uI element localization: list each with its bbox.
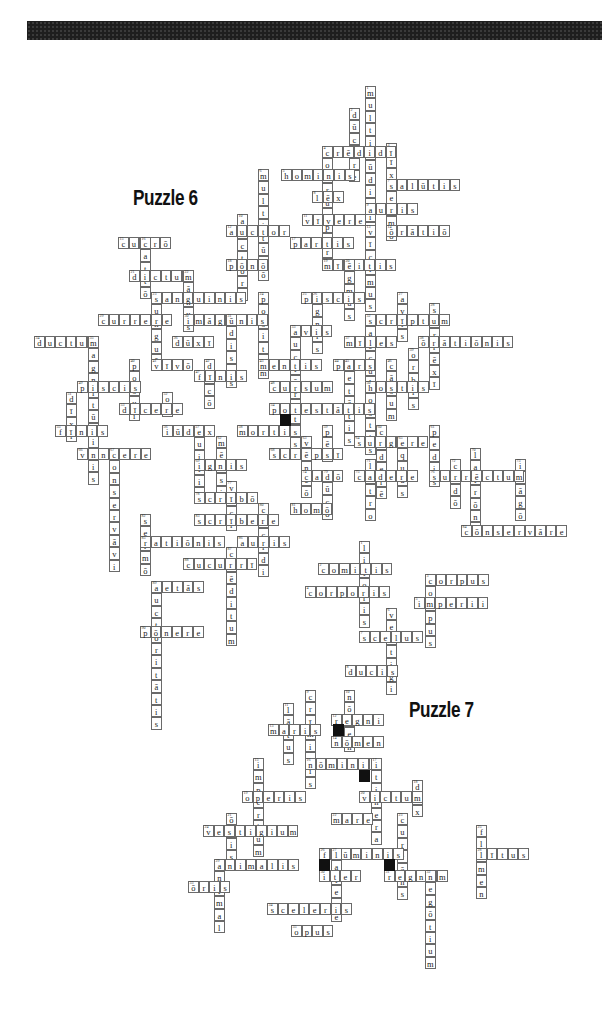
crossword-cell[interactable]: s34 (267, 903, 278, 915)
crossword-cell[interactable]: i (267, 825, 278, 837)
crossword-cell[interactable]: u (277, 825, 288, 837)
crossword-cell[interactable]: g (425, 895, 436, 907)
crossword-cell[interactable]: t (235, 825, 246, 837)
crossword-cell[interactable]: l (214, 921, 225, 933)
crossword-cell[interactable]: l (391, 631, 402, 643)
crossword-cell[interactable]: e (331, 885, 342, 897)
crossword-cell[interactable]: u (425, 624, 436, 636)
crossword-cell[interactable]: c9 (305, 690, 316, 702)
crossword-cell[interactable]: s (359, 615, 370, 627)
crossword-cell[interactable]: m (412, 791, 423, 803)
crossword-cell[interactable]: r (358, 586, 369, 598)
crossword-cell[interactable]: g (256, 825, 267, 837)
crossword-cell[interactable]: l11 (283, 703, 294, 715)
crossword-cell[interactable]: r31 (384, 870, 395, 882)
crossword-cell[interactable]: e (288, 903, 299, 915)
crossword-cell[interactable]: m (425, 597, 436, 609)
crossword-cell[interactable]: i (331, 903, 342, 915)
crossword-cell[interactable]: c (380, 791, 391, 803)
crossword-cell[interactable]: i (235, 859, 246, 871)
crossword-cell[interactable]: u (283, 740, 294, 752)
crossword-cell[interactable]: x (412, 805, 423, 817)
crossword-cell[interactable]: o19 (242, 791, 253, 803)
crossword-cell[interactable]: u (401, 631, 412, 643)
crossword-cell[interactable]: e (425, 882, 436, 894)
crossword-cell[interactable]: m13 (268, 724, 279, 736)
crossword-cell[interactable]: p (302, 925, 313, 937)
crossword-cell[interactable]: i (350, 563, 361, 575)
crossword-cell[interactable]: s (518, 848, 529, 860)
crossword-cell[interactable]: u (401, 791, 412, 803)
crossword-cell[interactable]: l28 (476, 848, 487, 860)
crossword-cell[interactable]: s (412, 631, 423, 643)
crossword-cell[interactable]: o (347, 586, 358, 598)
crossword-cell[interactable]: i17 (371, 758, 382, 770)
crossword-cell[interactable]: v24 (203, 825, 214, 837)
crossword-cell[interactable]: m (437, 870, 448, 882)
crossword-cell[interactable]: r (305, 702, 316, 714)
crossword-cell[interactable]: ō33 (188, 881, 199, 893)
crossword-cell[interactable]: i (305, 740, 316, 752)
crossword-cell[interactable]: p (457, 574, 468, 586)
crossword-cell[interactable]: m (425, 957, 436, 969)
crossword-cell[interactable]: i (226, 838, 237, 850)
crossword-cell[interactable]: d8 (345, 665, 356, 677)
crossword-cell[interactable]: a (214, 909, 225, 921)
crossword-cell[interactable]: n16 (305, 758, 316, 770)
crossword-cell[interactable]: n (347, 758, 358, 770)
crossword-cell[interactable]: s (478, 574, 489, 586)
crossword-cell[interactable]: u (467, 574, 478, 586)
crossword-cell[interactable]: a (342, 813, 353, 825)
crossword-cell[interactable]: m (246, 859, 257, 871)
crossword-cell[interactable]: c (278, 903, 289, 915)
crossword-cell[interactable]: c (370, 631, 381, 643)
crossword-cell[interactable]: l1 (359, 541, 370, 553)
crossword-cell[interactable]: l (299, 903, 310, 915)
crossword-cell[interactable]: ō (344, 702, 355, 714)
crossword-cell[interactable]: i5 (414, 597, 425, 609)
crossword-cell[interactable]: r (253, 808, 264, 820)
crossword-cell[interactable]: s7 (359, 631, 370, 643)
crossword-cell[interactable]: o (316, 586, 327, 598)
crossword-cell[interactable]: c23 (397, 813, 408, 825)
crossword-cell[interactable]: r (351, 870, 362, 882)
crossword-cell[interactable]: s (425, 636, 436, 648)
crossword-cell[interactable]: v20 (359, 791, 370, 803)
crossword-cell[interactable]: i (209, 881, 220, 893)
crossword-cell[interactable]: t (425, 920, 436, 932)
crossword-cell[interactable]: s (220, 881, 231, 893)
crossword-cell[interactable]: ī (487, 848, 498, 860)
crossword-cell[interactable]: m (352, 736, 363, 748)
crossword-cell[interactable]: c2 (318, 563, 329, 575)
crossword-cell[interactable]: i (361, 848, 372, 860)
crossword-cell[interactable]: e (363, 813, 374, 825)
crossword-cell[interactable]: i (369, 586, 380, 598)
crossword-cell[interactable]: ō (342, 736, 353, 748)
crossword-cell[interactable]: r (289, 724, 300, 736)
crossword-cell[interactable]: m (326, 758, 337, 770)
crossword-cell[interactable]: c (366, 665, 377, 677)
crossword-cell[interactable]: i (337, 758, 348, 770)
crossword-cell[interactable]: n (363, 714, 374, 726)
crossword-cell[interactable]: r (320, 903, 331, 915)
crossword-cell[interactable]: n32 (425, 870, 436, 882)
crossword-cell[interactable]: a (256, 859, 267, 871)
crossword-cell[interactable]: i (358, 758, 369, 770)
crossword-cell[interactable]: s (382, 563, 393, 575)
crossword-cell[interactable]: o35 (291, 925, 302, 937)
crossword-cell[interactable]: n (372, 848, 383, 860)
crossword-cell[interactable]: e (446, 597, 457, 609)
crossword-cell[interactable]: r (446, 574, 457, 586)
crossword-cell[interactable]: p (253, 791, 264, 803)
crossword-cell[interactable]: g (352, 714, 363, 726)
crossword-cell[interactable]: n10 (344, 690, 355, 702)
crossword-cell[interactable]: o (329, 563, 340, 575)
crossword-cell[interactable]: u (397, 825, 408, 837)
crossword-cell[interactable]: p (337, 586, 348, 598)
crossword-cell[interactable]: i (467, 597, 478, 609)
crossword-cell[interactable]: r (352, 813, 363, 825)
crossword-cell[interactable]: t (386, 645, 397, 657)
crossword-cell[interactable]: m (253, 845, 264, 857)
crossword-cell[interactable]: ō (316, 758, 327, 770)
crossword-cell[interactable]: u (425, 944, 436, 956)
